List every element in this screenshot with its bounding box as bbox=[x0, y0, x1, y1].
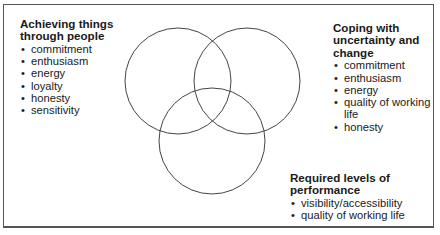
group-required-performance: Required levels of performance visibilit… bbox=[290, 172, 435, 221]
list-item: visibility/accessibility bbox=[290, 197, 435, 209]
circle-achieving-through-people bbox=[125, 28, 231, 134]
list-item: enthusiasm bbox=[333, 72, 433, 84]
group-list: commitment enthusiasm energy quality of … bbox=[333, 59, 433, 133]
circle-required-performance bbox=[159, 88, 265, 194]
group-title: Required levels of performance bbox=[290, 172, 435, 197]
list-item: energy bbox=[20, 67, 130, 79]
group-list: commitment enthusiasm energy loyalty hon… bbox=[20, 43, 130, 117]
list-item: quality of working life bbox=[333, 96, 433, 121]
list-item: enthusiasm bbox=[20, 55, 130, 67]
list-item: honesty bbox=[20, 92, 130, 104]
circle-coping-with-uncertainty bbox=[194, 28, 300, 134]
group-title: Achieving things through people bbox=[20, 18, 130, 43]
group-achieving-through-people: Achieving things through people commitme… bbox=[20, 18, 130, 117]
list-item: commitment bbox=[20, 43, 130, 55]
list-item: sensitivity bbox=[20, 104, 130, 116]
group-list: visibility/accessibility quality of work… bbox=[290, 197, 435, 222]
list-item: quality of working life bbox=[290, 209, 435, 221]
group-title: Coping with uncertainty and change bbox=[333, 22, 433, 59]
list-item: honesty bbox=[333, 121, 433, 133]
list-item: commitment bbox=[333, 59, 433, 71]
group-coping-with-uncertainty: Coping with uncertainty and change commi… bbox=[333, 22, 433, 133]
list-item: energy bbox=[333, 84, 433, 96]
list-item: loyalty bbox=[20, 80, 130, 92]
